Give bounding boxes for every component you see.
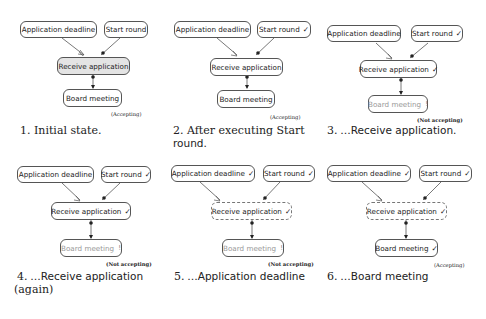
check-icon: ✓ xyxy=(308,169,314,178)
node-board-meeting: Board meeting! xyxy=(222,239,284,257)
check-icon: ✓ xyxy=(456,29,462,38)
node-application-deadline: Application deadline✓ xyxy=(327,165,411,182)
node-application-deadline: Application deadline xyxy=(174,21,251,38)
node-receive-application: Receive application✓ xyxy=(51,202,131,220)
status-label: (Not accepting) xyxy=(417,117,463,123)
node-board-meeting: Board meeting✓ xyxy=(375,239,438,257)
caption: 3. …Receive application. xyxy=(327,124,456,137)
panel-1: Application deadline Start round Receive… xyxy=(0,0,162,160)
status-label: (Not accepting) xyxy=(106,261,152,267)
panel-6: Application deadline✓ Start round✓ Recei… xyxy=(324,160,486,319)
node-start-round: Start round✓ xyxy=(101,166,151,183)
caption: 1. Initial state. xyxy=(20,124,102,137)
node-start-round: Start round✓ xyxy=(257,21,311,38)
status-label: (Accepting) xyxy=(434,262,464,268)
exclamation-icon: ! xyxy=(280,244,283,252)
check-icon: ✓ xyxy=(124,207,130,216)
caption: 2. After executing Startround. xyxy=(173,124,323,150)
node-receive-application: Receive application✓ xyxy=(360,60,437,78)
check-icon: ✓ xyxy=(432,65,438,74)
node-application-deadline: Application deadline xyxy=(327,25,401,42)
status-label: (Accepting) xyxy=(111,111,141,117)
status-label: (Accepting) xyxy=(270,114,300,120)
node-start-round: Start round✓ xyxy=(263,165,315,182)
status-label: (Not accepting) xyxy=(268,261,314,267)
check-icon: ✓ xyxy=(303,25,309,34)
check-icon: ✓ xyxy=(431,244,437,253)
node-board-meeting: Board meeting! xyxy=(60,239,122,257)
node-receive-application: Receive application✓ xyxy=(366,202,447,220)
panel-4: Application deadline Start round✓ Receiv… xyxy=(0,160,162,319)
check-icon: ✓ xyxy=(440,207,446,216)
panel-5: Application deadline✓ Start round✓ Recei… xyxy=(162,160,324,319)
check-icon: ✓ xyxy=(404,169,410,178)
node-board-meeting: Board meeting! xyxy=(368,95,428,113)
check-icon: ✓ xyxy=(145,170,151,179)
check-icon: ✓ xyxy=(464,169,470,178)
panel-2: Application deadline Start round✓ Receiv… xyxy=(162,0,324,160)
panel-3: Application deadline Start round✓ Receiv… xyxy=(324,0,486,160)
node-receive-application: Receive application xyxy=(210,58,283,76)
node-start-round: Start round xyxy=(104,21,148,38)
node-receive-application: Receive application✓ xyxy=(211,202,292,220)
node-start-round: Start round✓ xyxy=(411,25,463,42)
caption: 4. …Receive application(again) xyxy=(17,270,162,296)
check-icon: ✓ xyxy=(248,169,254,178)
node-application-deadline: Application deadline xyxy=(17,166,94,183)
node-start-round: Start round✓ xyxy=(419,165,472,182)
exclamation-icon: ! xyxy=(425,100,428,108)
node-receive-application: Receive application xyxy=(57,57,130,75)
caption: 6. …Board meeting xyxy=(327,270,428,283)
node-board-meeting: Board meeting xyxy=(63,89,122,107)
node-application-deadline: Application deadline✓ xyxy=(171,165,255,182)
exclamation-icon: ! xyxy=(118,244,121,252)
check-icon: ✓ xyxy=(285,207,291,216)
node-application-deadline: Application deadline xyxy=(20,21,97,38)
caption: 5. …Application deadline xyxy=(174,270,305,283)
node-board-meeting: Board meeting xyxy=(217,90,275,108)
